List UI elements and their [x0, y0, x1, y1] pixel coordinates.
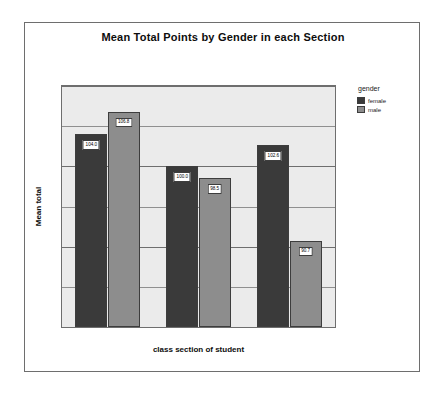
y-axis-tick-mark — [61, 166, 62, 167]
bar-female-section-2 — [166, 166, 198, 327]
legend-title: gender — [357, 85, 417, 92]
bar-value-label: 104.0 — [83, 140, 100, 149]
legend-swatch-male — [357, 106, 365, 113]
x-axis-title: class section of student — [61, 345, 336, 354]
y-axis-tick-mark — [61, 247, 62, 248]
x-axis-tick-2: 2 — [197, 327, 201, 328]
x-axis-tick-1: 1 — [106, 327, 110, 328]
legend-label-female: female — [368, 98, 386, 104]
chart-legend: gender femalemale — [357, 85, 417, 115]
bar-value-label: 102.6 — [265, 151, 282, 160]
x-axis-tick-mark — [290, 327, 291, 328]
gridline — [62, 126, 335, 127]
y-axis-tick-mark — [61, 327, 62, 328]
x-axis-tick-mark — [108, 327, 109, 328]
legend-entry-female: female — [357, 97, 417, 104]
legend-swatch-female — [357, 97, 365, 104]
y-axis-title-text: Mean total — [35, 187, 44, 227]
x-axis-tick-3: 3 — [288, 327, 292, 328]
legend-entries: femalemale — [357, 97, 417, 113]
bar-male-section-1 — [108, 112, 140, 327]
gridline — [62, 86, 335, 87]
chart-frame: Mean Total Points by Gender in each Sect… — [24, 22, 420, 372]
y-axis-title: Mean total — [33, 85, 45, 328]
bar-female-section-1 — [75, 134, 107, 327]
bar-value-label: 106.8 — [115, 118, 132, 127]
legend-label-male: male — [368, 107, 381, 113]
bar-value-label: 100.0 — [174, 172, 191, 181]
legend-entry-male: male — [357, 106, 417, 113]
plot-area: 104.0106.81100.098.52102.690.73809010011… — [61, 85, 336, 328]
y-axis-tick-mark — [61, 86, 62, 87]
bar-value-label: 98.5 — [207, 184, 222, 193]
chart-title: Mean Total Points by Gender in each Sect… — [25, 31, 421, 43]
bar-male-section-2 — [199, 178, 231, 327]
x-axis-tick-mark — [199, 327, 200, 328]
bar-value-label: 90.7 — [298, 247, 313, 256]
bar-female-section-3 — [257, 145, 289, 327]
y-axis-tick-80: 80 — [61, 324, 62, 328]
